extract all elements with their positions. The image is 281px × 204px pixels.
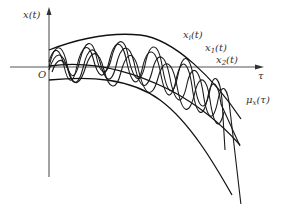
curve-label-x2: x2(t) bbox=[216, 55, 238, 67]
x-axis-arrow-icon bbox=[255, 65, 264, 70]
x-axis-label-text: τ bbox=[258, 70, 264, 81]
y-axis-arrow-icon bbox=[47, 7, 52, 15]
y-axis-label-text: x(t) bbox=[23, 9, 40, 20]
curve-label-x2-tail: (t) bbox=[226, 54, 238, 65]
random-process-diagram: x(t) O τ xi(t) x1(t) x2(t) μx(τ) bbox=[0, 0, 281, 204]
sample-function-x2 bbox=[49, 48, 241, 204]
lower-envelope bbox=[49, 78, 232, 195]
curve-label-mean: μx(τ) bbox=[246, 95, 270, 107]
origin-label-text: O bbox=[38, 69, 46, 80]
diagram-canvas bbox=[0, 0, 281, 204]
mean-function-curve bbox=[49, 64, 240, 145]
curve-label-xi-tail: (t) bbox=[191, 29, 203, 40]
curve-label-xi: xi(t) bbox=[183, 30, 203, 42]
axes bbox=[10, 7, 264, 177]
sample-function-x1 bbox=[49, 42, 225, 150]
x-axis-label: τ bbox=[258, 71, 264, 81]
curve-label-mean-tail: (τ) bbox=[256, 94, 269, 105]
origin-label: O bbox=[38, 70, 46, 80]
y-axis-label: x(t) bbox=[23, 10, 40, 20]
sample-function-xi bbox=[49, 44, 240, 146]
curve-label-x1-tail: (t) bbox=[215, 42, 227, 53]
